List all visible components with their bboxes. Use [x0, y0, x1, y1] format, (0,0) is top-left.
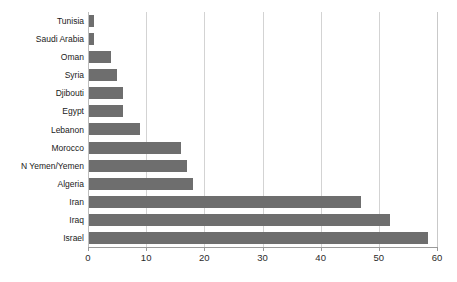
- bar-row: [88, 229, 437, 247]
- bar-morocco: [88, 142, 181, 154]
- x-tick-mark-40: [321, 247, 322, 251]
- bar-egypt: [88, 105, 123, 117]
- bar-row: [88, 175, 437, 193]
- plot-area: [88, 12, 437, 247]
- bar-syria: [88, 69, 117, 81]
- x-tick-label-0: 0: [68, 252, 108, 263]
- y-tick-label-n-yemen-yemen: N Yemen/Yemen: [0, 161, 84, 171]
- bar-n-yemen-yemen: [88, 160, 187, 172]
- bar-iran: [88, 196, 361, 208]
- bar-chart: TunisiaSaudi ArabiaOmanSyriaDjiboutiEgyp…: [0, 0, 457, 282]
- bar-israel: [88, 232, 428, 244]
- y-tick-label-israel: Israel: [0, 233, 84, 243]
- bar-row: [88, 211, 437, 229]
- y-tick-label-oman: Oman: [0, 52, 84, 62]
- bar-row: [88, 102, 437, 120]
- y-tick-label-morocco: Morocco: [0, 143, 84, 153]
- bar-row: [88, 120, 437, 138]
- bar-row: [88, 84, 437, 102]
- x-tick-label-20: 20: [184, 252, 224, 263]
- x-tick-mark-20: [204, 247, 205, 251]
- bar-row: [88, 30, 437, 48]
- y-axis-category-labels: TunisiaSaudi ArabiaOmanSyriaDjiboutiEgyp…: [0, 12, 84, 247]
- x-tick-label-50: 50: [359, 252, 399, 263]
- y-tick-label-egypt: Egypt: [0, 106, 84, 116]
- y-tick-label-iran: Iran: [0, 197, 84, 207]
- bar-row: [88, 157, 437, 175]
- bar-oman: [88, 51, 111, 63]
- y-axis-line: [88, 12, 89, 248]
- x-tick-mark-0: [88, 247, 89, 251]
- bar-row: [88, 12, 437, 30]
- bar-algeria: [88, 178, 193, 190]
- bar-row: [88, 48, 437, 66]
- x-tick-mark-60: [437, 247, 438, 251]
- x-tick-label-60: 60: [417, 252, 457, 263]
- x-tick-mark-30: [263, 247, 264, 251]
- x-axis-tick-labels: 0102030405060: [0, 252, 457, 272]
- y-tick-label-lebanon: Lebanon: [0, 125, 84, 135]
- y-tick-label-saudi-arabia: Saudi Arabia: [0, 34, 84, 44]
- y-tick-label-iraq: Iraq: [0, 215, 84, 225]
- bar-row: [88, 66, 437, 84]
- bar-djibouti: [88, 87, 123, 99]
- y-tick-label-djibouti: Djibouti: [0, 88, 84, 98]
- x-tick-mark-50: [379, 247, 380, 251]
- y-tick-label-tunisia: Tunisia: [0, 16, 84, 26]
- x-tick-label-40: 40: [301, 252, 341, 263]
- bar-row: [88, 139, 437, 157]
- x-tick-mark-10: [146, 247, 147, 251]
- y-tick-label-algeria: Algeria: [0, 179, 84, 189]
- gridline-60: [437, 12, 438, 247]
- bar-lebanon: [88, 123, 140, 135]
- bar-iraq: [88, 214, 390, 226]
- x-tick-label-10: 10: [126, 252, 166, 263]
- y-tick-label-syria: Syria: [0, 70, 84, 80]
- x-tick-label-30: 30: [243, 252, 283, 263]
- bar-row: [88, 193, 437, 211]
